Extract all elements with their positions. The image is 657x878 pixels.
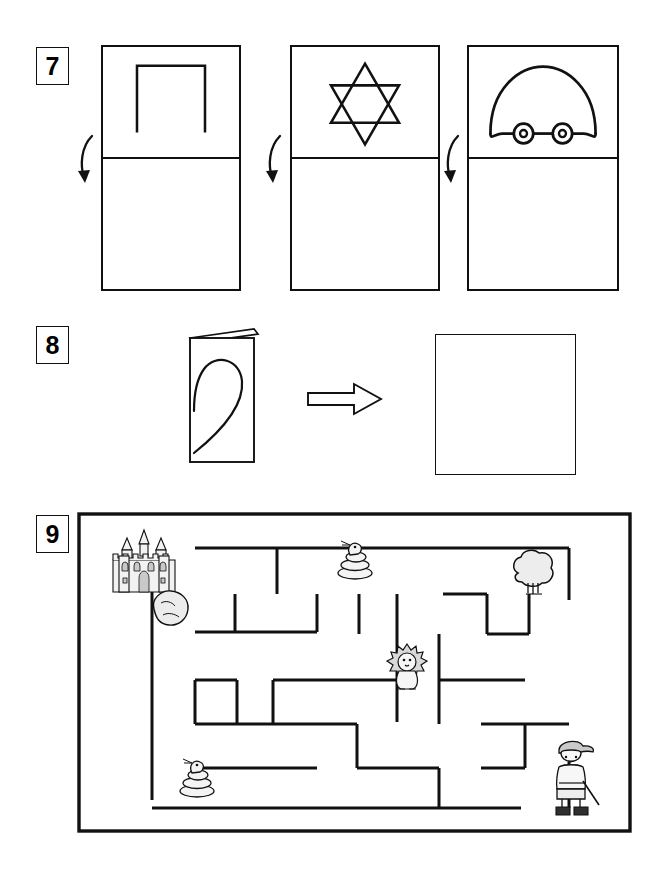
exercise-number-7: 7 bbox=[36, 47, 69, 85]
fold-down-arrow-2 bbox=[263, 131, 289, 189]
fold-down-arrow-1 bbox=[75, 131, 101, 189]
tree-icon bbox=[508, 547, 558, 601]
shape-open-square-arch bbox=[103, 47, 239, 289]
snake-icon-top bbox=[330, 535, 380, 583]
shape-six-pointed-star bbox=[292, 47, 438, 289]
fold-panel-3[interactable] bbox=[467, 45, 619, 291]
exercise-number-9: 9 bbox=[36, 515, 69, 553]
fold-panel-2[interactable] bbox=[290, 45, 440, 291]
snake-icon-bottom bbox=[172, 753, 222, 801]
fold-panel-1[interactable] bbox=[101, 45, 241, 291]
right-arrow-outline-icon bbox=[306, 382, 384, 416]
fold-line-2 bbox=[292, 157, 438, 159]
exercise-8: 8 bbox=[0, 300, 657, 500]
fold-down-arrow-3 bbox=[441, 131, 467, 189]
answer-square-empty[interactable] bbox=[435, 334, 576, 475]
exercise-7: 7 bbox=[0, 0, 657, 310]
boy-explorer-icon bbox=[545, 733, 601, 819]
shape-dome-car bbox=[469, 47, 617, 289]
exercise-number-8: 8 bbox=[36, 326, 69, 364]
worksheet-page: 7 bbox=[0, 0, 657, 878]
rock-icon bbox=[147, 587, 193, 629]
fold-line-1 bbox=[103, 157, 239, 159]
exercise-9: 9 bbox=[0, 495, 657, 878]
fold-line-3 bbox=[469, 157, 617, 159]
folded-card-half-heart[interactable] bbox=[182, 325, 266, 465]
lion-icon bbox=[385, 641, 429, 695]
